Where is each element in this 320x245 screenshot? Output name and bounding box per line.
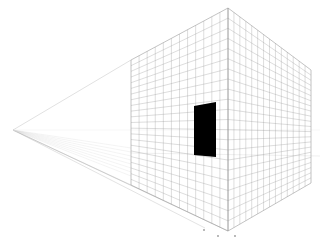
door-shape — [194, 102, 216, 157]
right-face-grid — [228, 8, 311, 231]
corner-markers — [203, 229, 236, 237]
perspective-drawing — [0, 0, 320, 245]
